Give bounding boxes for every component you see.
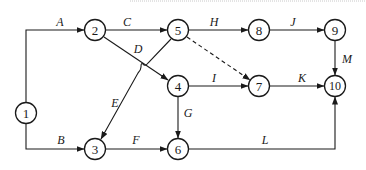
svg-text:4: 4 [175, 79, 182, 94]
node-8: 8 [249, 20, 270, 41]
svg-text:7: 7 [256, 79, 263, 94]
edge-B [26, 124, 84, 149]
network-diagram: A B C D E F G H I J K L M 1 2 3 4 5 6 7 … [0, 0, 366, 170]
edge-label-J: J [290, 15, 296, 29]
svg-text:9: 9 [332, 23, 339, 38]
node-7: 7 [249, 76, 270, 97]
edge-label-I: I [211, 71, 217, 85]
edge-label-F: F [131, 133, 140, 147]
edge-label-G: G [184, 106, 193, 120]
edge-A [26, 30, 84, 102]
node-5: 5 [168, 20, 189, 41]
node-2: 2 [85, 20, 106, 41]
svg-text:1: 1 [23, 106, 30, 121]
edge-label-B: B [57, 133, 65, 147]
edge-label-K: K [297, 71, 307, 85]
node-3: 3 [85, 139, 106, 160]
svg-text:6: 6 [175, 142, 182, 157]
edge-label-H: H [209, 15, 220, 29]
node-6: 6 [168, 139, 189, 160]
svg-text:10: 10 [329, 79, 341, 93]
svg-text:5: 5 [175, 23, 182, 38]
svg-text:8: 8 [256, 23, 263, 38]
edge-label-D: D [133, 42, 143, 56]
edge-label-L: L [261, 133, 269, 147]
node-1: 1 [16, 103, 37, 124]
node-10: 10 [325, 76, 346, 97]
svg-text:3: 3 [92, 142, 99, 157]
edge-label-M: M [341, 52, 353, 66]
node-9: 9 [325, 20, 346, 41]
edge-label-C: C [123, 15, 132, 29]
edge-label-E: E [110, 96, 119, 110]
nodes: 1 2 3 4 5 6 7 8 9 10 [16, 20, 346, 160]
node-4: 4 [168, 76, 189, 97]
edge-label-A: A [55, 15, 64, 29]
svg-text:2: 2 [92, 23, 99, 38]
edge-dummy [187, 37, 250, 80]
